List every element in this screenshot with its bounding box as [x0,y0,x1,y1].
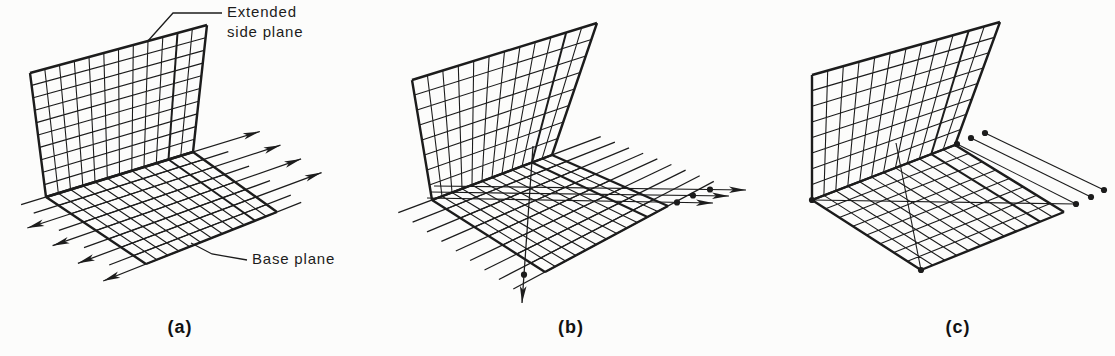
base-plane-grid [442,159,658,267]
intersection-dot [982,130,988,136]
intersection-dot [1101,187,1107,193]
intersection-dot [1088,194,1094,200]
panel-c-drawing [809,22,1107,273]
intersection-dot [707,186,713,192]
arrowhead [78,254,95,263]
figure-canvas [0,0,1115,356]
label-extended-side-plane: Extended side plane [227,2,303,42]
caption-panel-a: (a) [150,317,210,338]
intersection-dot [674,199,680,205]
intersection-dot [521,272,527,278]
figure: Extended side plane Base plane (a) (b) (… [0,0,1115,356]
caption-panel-b: (b) [541,317,601,338]
arrowhead [305,173,322,182]
arrowhead [53,237,70,246]
ray-chord [971,138,1091,197]
intersection-dot [968,135,974,141]
label-base-plane: Base plane [252,249,335,269]
leader-line [191,243,247,260]
panel-a-drawing [21,13,322,281]
arrowhead [284,159,301,168]
base-plane-border [432,155,668,272]
arrowhead [103,272,120,281]
intersection-dot [690,192,696,198]
side-plane-grid [32,29,206,193]
side-plane-heavy-line [169,33,178,160]
panel-b-drawing [398,23,746,303]
caption-panel-c: (c) [928,317,988,338]
